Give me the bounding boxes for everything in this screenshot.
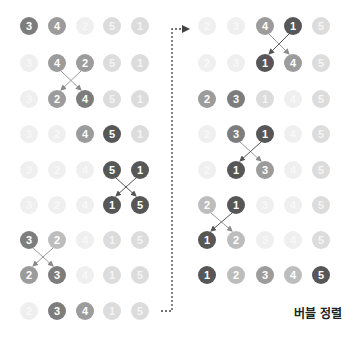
arrows-overlay xyxy=(0,0,353,340)
diagram-title: 버블 정렬 xyxy=(294,304,342,321)
connector-dashed-arrow xyxy=(161,29,188,311)
swap-arrows xyxy=(33,34,289,266)
